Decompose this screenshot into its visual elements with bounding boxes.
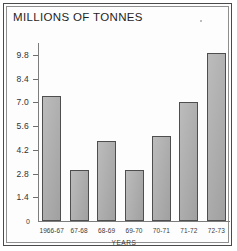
y-tick-label: 4.2 (17, 145, 29, 155)
x-tick-label: 67-68 (71, 227, 88, 234)
y-tick-4.2 (33, 150, 38, 151)
y-tick-label: 7.0 (17, 97, 29, 107)
bar (97, 141, 116, 221)
x-axis-line (38, 221, 230, 222)
x-tick-label: 70-71 (153, 227, 170, 234)
bar (207, 53, 226, 221)
bar (125, 170, 144, 221)
y-tick-7.0 (33, 102, 38, 103)
y-tick-label: 2.8 (17, 169, 29, 179)
chart-title: MILLIONS OF TONNES (13, 11, 143, 23)
bar (152, 136, 171, 221)
y-tick-8.4 (33, 79, 38, 80)
bar (42, 96, 61, 221)
y-tick-label: 5.6 (17, 121, 29, 131)
y-axis-zero-label: 0 (26, 218, 30, 225)
y-tick-1.4 (33, 197, 38, 198)
bar (70, 170, 89, 221)
y-tick-label: 1.4 (17, 192, 29, 202)
y-tick-5.6 (33, 126, 38, 127)
x-tick-label: 68-69 (98, 227, 115, 234)
x-tick-label: 1966-67 (39, 227, 64, 234)
x-tick-label: 72-73 (208, 227, 225, 234)
chart-frame: MILLIONS OF TONNES 0 9.88.47.05.64.22.81… (3, 3, 232, 246)
x-tick-label: 71-72 (180, 227, 197, 234)
y-tick-2.8 (33, 174, 38, 175)
scan-speck (200, 20, 202, 22)
y-tick-label: 8.4 (17, 74, 29, 84)
y-axis-line (38, 43, 39, 222)
x-axis-title: YEARS (111, 239, 136, 246)
plot-area: 9.88.47.05.64.22.81.4 1966-6767-6868-696… (38, 43, 234, 222)
bar (179, 102, 198, 221)
y-tick-9.8 (33, 55, 38, 56)
y-tick-label: 9.8 (17, 50, 29, 60)
x-tick-label: 69-70 (125, 227, 142, 234)
